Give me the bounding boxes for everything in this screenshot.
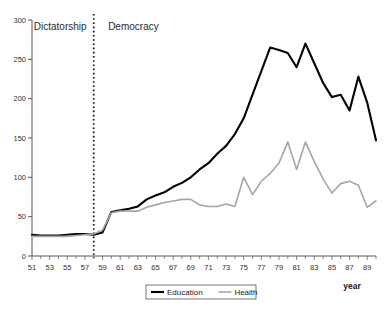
chart-legend: EducationHealth <box>146 285 258 299</box>
democracy-label: Democracy <box>108 21 159 32</box>
region-annotations: DictatorshipDemocracy <box>34 21 159 32</box>
legend-label-health: Health <box>234 288 257 297</box>
x-axis: 5153555759616365676971737577798183858789 <box>28 256 376 272</box>
y-tick-label: 300 <box>13 16 26 25</box>
x-tick-label: 51 <box>28 263 36 272</box>
series-line-education <box>32 44 376 236</box>
x-tick-label: 73 <box>222 263 230 272</box>
x-tick-label: 79 <box>275 263 283 272</box>
x-axis-ticks: 5153555759616365676971737577798183858789 <box>28 256 376 272</box>
x-tick-label: 81 <box>292 263 300 272</box>
y-tick-label: 250 <box>13 55 26 64</box>
x-tick-label: 77 <box>257 263 265 272</box>
x-axis-title: year <box>343 281 361 291</box>
x-tick-label: 87 <box>345 263 353 272</box>
y-tick-label: 100 <box>13 173 26 182</box>
x-tick-label: 69 <box>187 263 195 272</box>
data-series <box>32 44 376 237</box>
x-tick-label: 85 <box>328 263 336 272</box>
x-tick-label: 57 <box>81 263 89 272</box>
x-tick-label: 55 <box>63 263 71 272</box>
y-tick-label: 0 <box>22 252 26 261</box>
x-tick-label: 83 <box>310 263 318 272</box>
x-tick-label: 71 <box>204 263 212 272</box>
x-tick-label: 53 <box>45 263 53 272</box>
x-tick-label: 59 <box>98 263 106 272</box>
legend-label-education: Education <box>167 288 203 297</box>
y-axis-ticks: 050100150200250300 <box>13 16 32 261</box>
y-tick-label: 200 <box>13 94 26 103</box>
x-tick-label: 89 <box>363 263 371 272</box>
series-line-health <box>32 142 376 236</box>
x-tick-label: 61 <box>116 263 124 272</box>
y-tick-label: 150 <box>13 134 26 143</box>
y-axis: 050100150200250300 <box>13 16 32 261</box>
y-tick-label: 50 <box>18 212 26 221</box>
x-tick-label: 67 <box>169 263 177 272</box>
x-tick-label: 65 <box>151 263 159 272</box>
chart-container: 050100150200250300 515355575961636567697… <box>0 0 391 309</box>
x-tick-label: 63 <box>134 263 142 272</box>
line-chart: 050100150200250300 515355575961636567697… <box>0 0 391 309</box>
dictatorship-label: Dictatorship <box>34 21 87 32</box>
x-tick-label: 75 <box>240 263 248 272</box>
